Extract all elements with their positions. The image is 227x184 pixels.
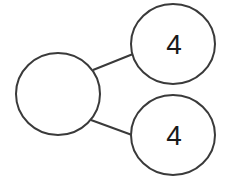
connector-top [93,54,133,70]
number-bond-diagram: 4 4 [0,0,227,184]
part-label-top: 4 [166,29,182,60]
whole-circle [16,53,100,135]
connector-bottom [91,120,132,135]
diagram-canvas: 4 4 [0,0,227,184]
part-label-bottom: 4 [166,120,182,151]
